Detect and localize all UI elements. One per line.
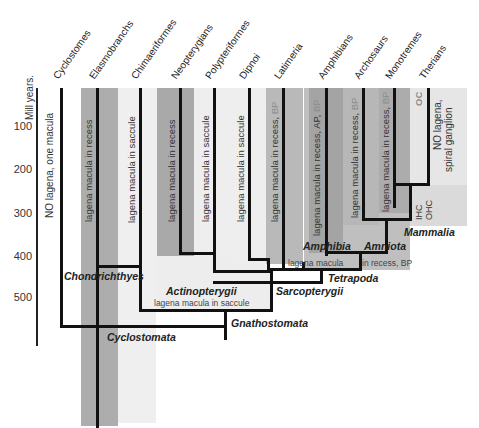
annotation-amphibians: lagena macula in recess, AP, BP (311, 99, 322, 236)
branch-osteichthyes (270, 270, 273, 312)
tetrapoda-note-1: lagena macula (288, 258, 343, 268)
annotation-latimeria: lagena macula in recess, BP (269, 102, 280, 222)
annotation-dipnoi: lagena macula in saccule (235, 115, 246, 222)
annotation-amphibians-main: lagena macula in recess, AP, (311, 115, 322, 236)
axis-title: Mill years. (24, 75, 35, 120)
clade-label-amphibia: Amphibia (303, 240, 351, 252)
clade-label-amniota: Amniota (364, 240, 406, 252)
clade-label-sarcopterygii: Sarcopterygii (276, 285, 343, 297)
annotation-neopterygians: lagena macula in recess (166, 120, 177, 222)
annotation-elasmobranchs: lagena macula in recess (83, 120, 94, 222)
branch-cyclostomes (60, 88, 63, 328)
taxon-label-amphibians: Amphibians (316, 32, 355, 81)
taxon-label-elasmobranchs: Elasmobranchs (87, 18, 136, 81)
annotation-archosaurs-main: lagena macula in recess, (349, 113, 360, 218)
branch-amphibians (325, 88, 328, 256)
branch-sarcopterygii (213, 281, 323, 284)
annotation-cyclostomes: NO lagena, one macula (44, 113, 55, 218)
branch-chondrichthyes (96, 265, 142, 268)
branch-mammalia-stem (409, 183, 412, 220)
y-tick-200: 200 (2, 163, 32, 175)
annotation-monotremes-bp: BP (380, 92, 391, 105)
branch-dipnoi-join (248, 258, 269, 261)
branch-dipnoi (248, 88, 251, 260)
branch-root-stub (224, 310, 227, 340)
y-tick-100: 100 (2, 120, 32, 132)
branch-gnathostomata (139, 309, 272, 312)
clade-label-mammalia: Mammalia (404, 226, 455, 238)
clade-label-chondrichthyes: Chondrichthyes (64, 270, 144, 282)
y-tick-300: 300 (2, 207, 32, 219)
annotation-monotremes-main: lagena macula in recess, (380, 107, 391, 212)
branch-archosaurs (362, 88, 365, 220)
branch-actinopterygii-inner (179, 252, 216, 255)
taxon-label-latimeria: Latimeria (272, 41, 305, 81)
branch-neopterygians (179, 88, 182, 254)
chimaeriformes-background (118, 88, 156, 423)
annotation-amphibians-bp: BP (311, 99, 322, 112)
clade-label-actinopterygii: Actinopterygii (166, 285, 237, 297)
annotation-archosaurs-bp: BP (349, 98, 360, 111)
annotation-ohc: OHC (424, 200, 434, 220)
branch-monotremes (393, 88, 396, 208)
annotation-therians-oc: OC (413, 92, 424, 106)
annotation-archosaurs: lagena macula in recess, BP (349, 98, 360, 218)
annotation-therians-line1: NO lagena, (432, 99, 443, 150)
y-tick-500: 500 (2, 291, 32, 303)
branch-therians (427, 88, 430, 185)
branch-actinopterygii (213, 270, 273, 273)
tetrapoda-note-2: in recess, BP (362, 258, 412, 268)
branch-cyclostomata-root (60, 325, 227, 328)
clade-label-tetrapoda: Tetrapoda (328, 272, 378, 284)
clade-label-gnathostomata: Gnathostomata (231, 317, 308, 329)
annotation-monotremes: lagena macula in recess, BP (380, 92, 391, 212)
branch-tetrapoda-connect (304, 268, 362, 271)
clade-label-cyclostomata: Cyclostomata (107, 331, 176, 343)
branch-sarcopterygii-stem (320, 269, 323, 284)
annotation-chimaeriformes: lagena macula in saccule (126, 116, 137, 223)
y-tick-400: 400 (2, 250, 32, 262)
annotation-latimeria-main: lagena macula in recess, (269, 117, 280, 222)
annotation-polypteriformes: lagena macula in saccule (200, 115, 211, 222)
branch-latimeria (282, 88, 285, 270)
annotation-ihc: IHC (414, 205, 424, 221)
time-axis-line (36, 88, 38, 346)
annotation-therians-line2: spiral ganglion (443, 108, 454, 173)
annotation-latimeria-bp: BP (269, 102, 280, 115)
taxon-label-dipnoi: Dipnoi (237, 51, 262, 81)
taxon-label-therians: Therians (417, 43, 448, 81)
gnathostomata-note: lagena macula in saccule (154, 298, 249, 308)
branch-elasmobranchs (96, 88, 99, 428)
branch-polypteriformes (213, 88, 216, 272)
